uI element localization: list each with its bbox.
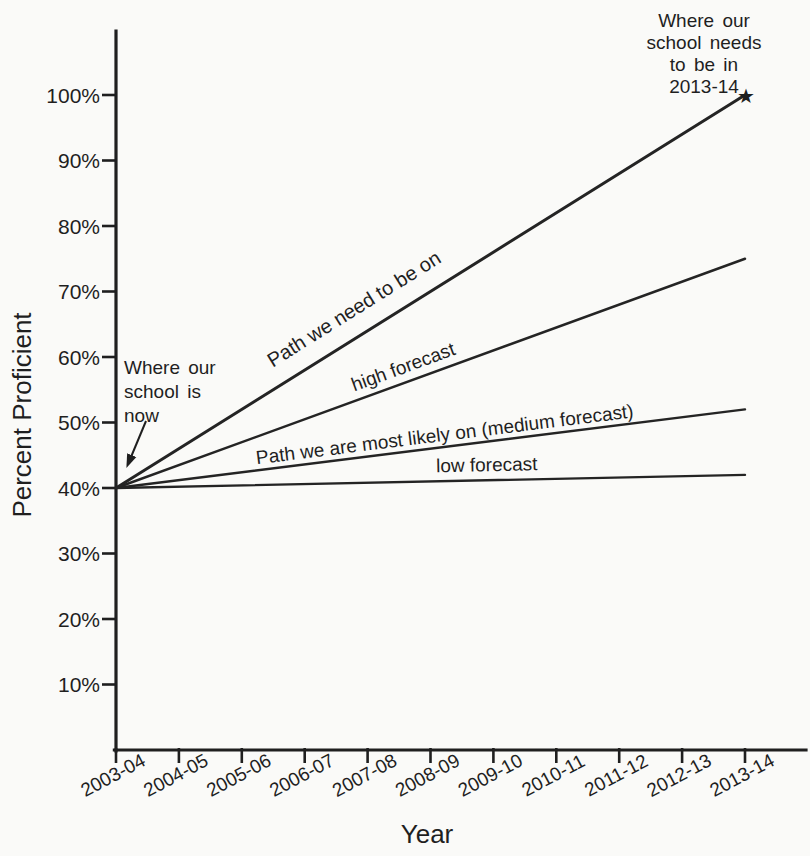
y-tick-label: 60% <box>58 346 100 369</box>
annotation-school-now-line: school is <box>124 381 201 402</box>
x-tick-label: 2005-06 <box>203 750 274 801</box>
y-tick-label: 20% <box>58 608 100 631</box>
x-tick-label: 2012-13 <box>643 750 714 801</box>
x-tick-label: 2009-10 <box>455 750 526 801</box>
x-axis-title: Year <box>401 819 454 849</box>
series-label-high-forecast: high forecast <box>348 338 458 395</box>
y-tick-label: 40% <box>58 477 100 500</box>
annotation-school-now-line: Where our <box>124 357 216 378</box>
y-tick-label: 90% <box>58 149 100 172</box>
x-tick-label: 2007-08 <box>329 750 400 801</box>
y-tick-label: 50% <box>58 411 100 434</box>
y-axis-ticks: 10%20%30%40%50%60%70%80%90%100% <box>46 84 116 697</box>
y-tick-label: 30% <box>58 542 100 565</box>
pointer-arrow <box>131 421 146 457</box>
annotation-school-needs-line: Where our <box>658 10 750 31</box>
x-tick-label: 2006-07 <box>266 750 337 801</box>
annotation-school-needs-line: 2013-14 <box>669 76 739 97</box>
x-tick-label: 2010-11 <box>518 750 588 801</box>
star-marker-icon: ★ <box>737 85 755 107</box>
x-tick-label: 2008-09 <box>392 750 463 801</box>
x-tick-label: 2004-05 <box>140 750 211 801</box>
annotation-school-now-line: now <box>124 405 159 426</box>
x-tick-label: 2003-04 <box>77 749 149 800</box>
x-axis-ticks: 2003-042004-052005-062006-072007-082008-… <box>77 748 778 801</box>
y-tick-label: 80% <box>58 215 100 238</box>
x-tick-label: 2011-12 <box>581 750 651 801</box>
y-axis-title: Percent Proficient <box>7 312 37 518</box>
annotation-school-now: Where our school is now <box>124 357 216 457</box>
y-tick-label: 70% <box>58 280 100 303</box>
axes <box>114 31 806 751</box>
annotation-school-needs: Where our school needs to be in 2013-14 … <box>647 10 762 107</box>
x-tick-label: 2013-14 <box>706 749 778 800</box>
proficiency-forecast-chart: 10%20%30%40%50%60%70%80%90%100% 2003-042… <box>0 0 810 856</box>
y-tick-label: 10% <box>58 673 100 696</box>
y-tick-label: 100% <box>46 84 100 107</box>
annotation-school-needs-line: to be in <box>670 54 738 75</box>
annotation-school-needs-line: school needs <box>647 32 762 53</box>
series-label-low-forecast: low forecast <box>436 453 539 476</box>
chart-canvas: 10%20%30%40%50%60%70%80%90%100% 2003-042… <box>0 0 810 856</box>
